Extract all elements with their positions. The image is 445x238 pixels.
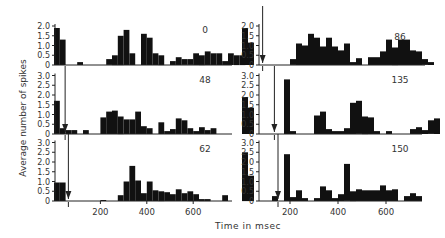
y-axis-label: Average number of spikes (18, 59, 28, 177)
histogram-bar (205, 130, 211, 134)
histogram-bar (386, 40, 392, 65)
y-tick-label: 2.0 (37, 158, 50, 167)
y-tick-label: 1.5 (37, 32, 50, 41)
histogram-bar (182, 59, 188, 65)
histogram-bar (100, 117, 106, 134)
histogram-bar (392, 189, 398, 201)
histogram-bar (296, 190, 302, 201)
y-tick-label: 1.0 (37, 42, 50, 51)
histogram-bar (211, 53, 217, 65)
histogram-bar (416, 196, 422, 201)
x-tick-label: 600 (185, 207, 201, 217)
y-tick-label: 0.5 (241, 51, 254, 60)
histogram-bar (374, 57, 380, 65)
histogram-bar (106, 59, 112, 65)
y-tick-label: 1.0 (241, 178, 254, 187)
panel-delay-label: 135 (391, 75, 408, 85)
y-tick-label: 0 (45, 197, 50, 206)
panel-right-middle: 00.51.01.52.02.53.0135 (241, 66, 440, 140)
y-tick-label: 2.5 (241, 148, 254, 157)
histogram-bar (141, 126, 147, 134)
histogram-bar (362, 117, 368, 135)
histogram-bar (296, 44, 302, 66)
histogram-bar (83, 130, 89, 134)
histogram-bar (404, 40, 410, 65)
histogram-bar (410, 129, 416, 134)
x-tick-label: 200 (92, 207, 108, 217)
histogram-bar (326, 190, 332, 201)
histogram-bar (129, 119, 135, 134)
y-tick-label: 2.0 (241, 158, 254, 167)
histogram-bar (326, 129, 332, 134)
arrowhead-icon (260, 55, 266, 63)
histogram-bar (176, 118, 182, 134)
histogram-bar (118, 195, 124, 201)
histogram-bar (350, 191, 356, 201)
histogram-bar (112, 111, 118, 134)
y-tick-label: 2.0 (37, 22, 50, 31)
histogram-bar (205, 51, 211, 65)
histogram-bar (170, 129, 176, 134)
histogram-bar (290, 197, 296, 201)
histogram-bar (290, 59, 296, 65)
histogram-bar (135, 112, 141, 134)
histogram-bar (141, 193, 147, 201)
y-tick-label: 1.0 (241, 111, 254, 120)
histogram-bar (302, 46, 308, 66)
histogram-bar (320, 112, 326, 134)
histogram-bar (422, 130, 428, 134)
histogram-bar (320, 186, 326, 201)
histogram-bar (176, 189, 182, 201)
histogram-bar (320, 47, 326, 66)
histogram-bar (135, 181, 141, 202)
x-axis-label: Time in msec (214, 221, 281, 231)
y-tick-label: 1.5 (241, 32, 254, 41)
histogram-bar (193, 194, 199, 201)
histogram-bar (112, 55, 118, 65)
histogram-bar (338, 50, 344, 65)
histogram-bar (434, 118, 440, 134)
histogram-bar (158, 122, 164, 134)
histogram-bar (380, 51, 386, 65)
histogram-bar (398, 40, 404, 65)
y-tick-label: 1.5 (37, 168, 50, 177)
histogram-bar (428, 62, 434, 65)
histogram-bar (386, 190, 392, 201)
histogram-bar (410, 193, 416, 201)
histogram-bar (228, 53, 234, 65)
panel-left-middle: 00.51.01.52.02.53.048 (37, 66, 232, 140)
histogram-bar (416, 127, 422, 134)
y-tick-label: 2.0 (37, 91, 50, 100)
panel-delay-label: 62 (199, 144, 210, 154)
histogram-bar (182, 120, 188, 134)
y-tick-label: 2.5 (37, 148, 50, 157)
x-tick-label: 400 (330, 207, 346, 217)
y-tick-label: 1.5 (241, 101, 254, 110)
histogram-bar (234, 55, 240, 65)
histogram-bar (170, 194, 176, 201)
histogram-bar (368, 57, 374, 65)
y-tick-label: 0 (249, 197, 254, 206)
histogram-bar (410, 50, 416, 65)
histogram-bar (170, 61, 176, 65)
histogram-bar (193, 53, 199, 65)
histogram-bar (356, 101, 362, 134)
panel-delay-label: 48 (199, 75, 211, 85)
histogram-bar (164, 192, 170, 201)
panel-delay-label: 86 (394, 32, 406, 42)
histogram-bar (199, 55, 205, 65)
y-tick-label: 1.5 (37, 101, 50, 110)
histogram-bar (222, 61, 228, 65)
histogram-bar (187, 128, 193, 134)
histogram-bar (326, 38, 332, 65)
histogram-bar (380, 185, 386, 201)
y-tick-label: 2.5 (241, 81, 254, 90)
histogram-bar (71, 130, 77, 134)
y-tick-label: 3.0 (37, 139, 50, 148)
histogram-bar (392, 48, 398, 66)
histogram-bar (199, 127, 205, 134)
arrowhead-icon (271, 124, 277, 132)
histogram-bar (356, 58, 362, 65)
histogram-bar (350, 103, 356, 134)
y-tick-label: 0.5 (37, 187, 50, 196)
